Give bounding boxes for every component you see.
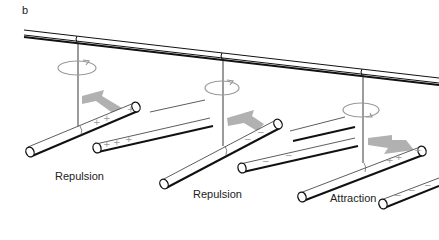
force-arrow-icon (368, 135, 414, 154)
svg-text:+: + (125, 134, 133, 144)
svg-text:−: − (262, 156, 270, 166)
suspended-rod: + + + (24, 101, 141, 158)
svg-text:−: − (408, 185, 416, 195)
svg-text:+: + (414, 145, 422, 155)
fixed-rod: − − (237, 138, 358, 174)
fixed-rod: − − − (377, 178, 439, 210)
svg-text:+: + (113, 137, 121, 147)
svg-text:−: − (424, 180, 432, 190)
svg-text:+: + (103, 113, 111, 123)
svg-text:−: − (285, 150, 293, 160)
svg-text:+: + (386, 155, 394, 165)
scene-2-repulsion: − − − − (150, 58, 358, 190)
caption-repulsion-1: Repulsion (55, 170, 104, 182)
caption-repulsion-2: Repulsion (193, 188, 242, 200)
caption-attraction: Attraction (330, 192, 376, 204)
svg-text:+: + (395, 152, 403, 162)
rotation-arrow-icon (58, 60, 96, 75)
svg-text:−: − (257, 127, 265, 137)
svg-text:−: − (244, 134, 252, 144)
svg-text:−: − (394, 190, 402, 200)
svg-text:+: + (93, 117, 101, 127)
rotation-arrow-icon (343, 103, 379, 117)
scene-1-repulsion: + + + + + + (24, 42, 213, 158)
scene-3-attraction: + + + − − − (290, 74, 439, 210)
svg-text:+: + (103, 139, 111, 149)
support-bar (24, 30, 439, 85)
svg-text:+: + (127, 104, 135, 114)
rotation-arrow-icon (205, 80, 239, 95)
